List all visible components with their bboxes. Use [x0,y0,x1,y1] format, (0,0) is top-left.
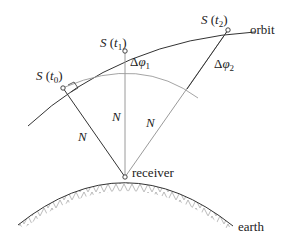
point-s-t2 [226,28,230,32]
earth-surface [18,183,233,228]
label-delta-phi-2: Δφ2 [214,56,234,73]
label-n-middle: N [111,109,122,124]
point-receiver [123,175,127,179]
point-s-t0 [61,86,65,90]
line-receiver-s-t0 [63,88,125,177]
label-s-t1: S (t1) [100,35,127,52]
label-delta-phi-1: Δφ1 [130,54,150,71]
label-s-t2: S (t2) [201,12,228,29]
label-receiver: receiver [132,165,175,180]
label-earth: earth [238,219,264,234]
label-n-right: N [145,115,156,130]
range-arc [65,73,198,98]
label-s-t0: S (t0) [36,68,63,85]
satellite-geometry-diagram: S (t0) S (t1) S (t2) orbit Δφ1 Δφ2 N N N… [0,0,290,247]
label-n-left: N [77,129,88,144]
label-orbit: orbit [250,22,275,37]
